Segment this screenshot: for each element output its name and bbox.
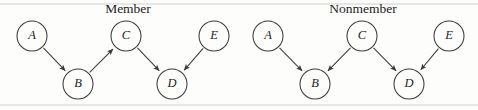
node-member-E: E (199, 21, 229, 51)
node-nonmember-C: C (347, 21, 377, 51)
node-member-C: C (111, 21, 141, 51)
edge-member-A-to-B (43, 48, 65, 71)
panel-member: MemberABCDE (17, 1, 229, 99)
edge-member-E-to-D (184, 48, 203, 70)
node-label-nonmember-A: A (263, 28, 272, 42)
node-member-B: B (63, 69, 93, 99)
node-label-nonmember-E: E (444, 28, 453, 42)
node-label-nonmember-D: D (403, 76, 413, 90)
panel-title-nonmember: Nonmember (329, 1, 397, 16)
node-label-member-D: D (166, 76, 176, 90)
panel-nonmember: NonmemberABCDE (253, 1, 464, 99)
edge-nonmember-C-to-D (374, 48, 397, 71)
node-member-D: D (157, 69, 187, 99)
graph-figure: MemberABCDENonmemberABCDE (0, 0, 478, 110)
node-nonmember-D: D (394, 69, 424, 99)
edges-member (43, 48, 203, 72)
edge-member-C-to-D (137, 48, 159, 71)
node-member-A: A (17, 21, 47, 51)
node-label-member-C: C (122, 28, 131, 42)
figure-container: MemberABCDENonmemberABCDE (0, 0, 478, 110)
node-label-member-B: B (74, 76, 82, 90)
edge-member-B-to-C (90, 49, 113, 72)
node-label-nonmember-C: C (358, 28, 367, 42)
node-label-member-A: A (27, 28, 36, 42)
node-label-nonmember-B: B (311, 76, 319, 90)
edge-nonmember-C-to-B (328, 48, 351, 71)
panels-layer: MemberABCDENonmemberABCDE (17, 1, 464, 99)
panel-title-member: Member (105, 1, 151, 16)
node-nonmember-A: A (253, 21, 283, 51)
nodes-nonmember: ABCDE (253, 21, 464, 99)
edge-nonmember-E-to-D (421, 49, 439, 70)
edges-nonmember (280, 48, 439, 71)
node-nonmember-E: E (434, 21, 464, 51)
nodes-member: ABCDE (17, 21, 229, 99)
node-label-member-E: E (209, 28, 218, 42)
node-nonmember-B: B (300, 69, 330, 99)
edge-nonmember-A-to-B (280, 48, 303, 71)
